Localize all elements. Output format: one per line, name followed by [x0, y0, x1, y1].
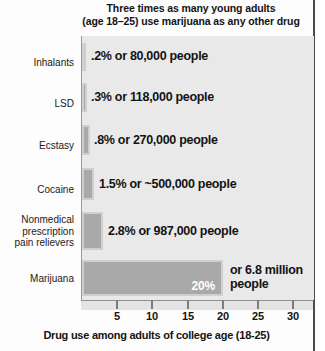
- bar-cocaine: [82, 168, 94, 200]
- bar-row-marijuana: 20% or 6.8 million people: [82, 256, 314, 300]
- x-tick-label-10: 10: [146, 310, 158, 322]
- page-margin: [316, 0, 325, 351]
- chart-title-line-1: Three times as many young adults: [72, 2, 310, 15]
- chart-figure: Three times as many young adults (age 18…: [0, 0, 325, 351]
- x-tick-5: [116, 300, 118, 309]
- bar-row-lsd: .3% or 118,000 people: [82, 77, 314, 119]
- x-tick-20: [222, 300, 224, 309]
- bar-inhalants: [82, 43, 86, 71]
- category-label-ecstasy: Ecstasy: [0, 140, 74, 152]
- x-tick-label-15: 15: [182, 310, 194, 322]
- bar-value-inhalants: .2% or 80,000 people: [91, 49, 208, 63]
- category-label-lsd: LSD: [0, 98, 74, 110]
- bar-value-marijuana: or 6.8 million people: [230, 263, 306, 291]
- chart-title: Three times as many young adults (age 18…: [72, 2, 310, 28]
- x-axis-title: Drug use among adults of college age (18…: [0, 329, 313, 341]
- x-tick-25: [257, 300, 259, 309]
- x-tick-10: [151, 300, 153, 309]
- bar-marijuana: 20%: [82, 260, 223, 296]
- category-label-cocaine: Cocaine: [0, 184, 74, 196]
- bar-row-cocaine: 1.5% or ~500,000 people: [82, 162, 314, 206]
- bar-value-ecstasy: .8% or 270,000 people: [94, 133, 218, 147]
- x-tick-label-5: 5: [114, 310, 120, 322]
- bar-row-ecstasy: .8% or 270,000 people: [82, 119, 314, 162]
- category-label-inhalants: Inhalants: [0, 57, 74, 69]
- x-tick-15: [187, 300, 189, 309]
- x-tick-label-30: 30: [287, 310, 299, 322]
- bar-value-lsd: .3% or 118,000 people: [91, 90, 214, 104]
- x-tick-label-25: 25: [252, 310, 264, 322]
- chart-title-line-2: (age 18–25) use marijuana as any other d…: [72, 15, 310, 28]
- bar-inside-label-marijuana: 20%: [192, 279, 215, 293]
- category-label-nonmedical-prescription-pain-relievers: Nonmedical prescription pain relievers: [0, 214, 74, 249]
- plot-area: .2% or 80,000 people .3% or 118,000 peop…: [81, 36, 314, 300]
- x-tick-30: [292, 300, 294, 309]
- x-tick-label-20: 20: [217, 310, 229, 322]
- category-label-marijuana: Marijuana: [0, 273, 74, 285]
- bar-value-cocaine: 1.5% or ~500,000 people: [99, 177, 236, 191]
- bar-nonmedical-prescription-pain-relievers: [82, 212, 103, 250]
- bar-lsd: [82, 83, 87, 112]
- bar-ecstasy: [82, 125, 90, 155]
- bar-row-nonmedical-prescription-pain-relievers: 2.8% or 987,000 people: [82, 206, 314, 256]
- bar-row-inhalants: .2% or 80,000 people: [82, 36, 314, 77]
- bar-value-nonmedical-prescription-pain-relievers: 2.8% or 987,000 people: [108, 224, 238, 238]
